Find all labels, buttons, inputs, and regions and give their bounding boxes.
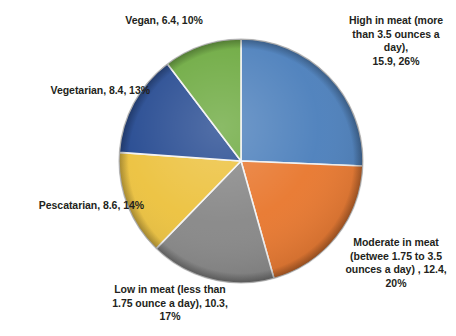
- pie-svg: [117, 37, 365, 285]
- slice-label-low-in-meat: Low in meat (less than 1.75 ounce a day)…: [92, 283, 248, 324]
- pie-graphic: [117, 37, 365, 285]
- pie-chart: High in meat (more than 3.5 ounces a day…: [0, 0, 456, 336]
- slice-label-vegetarian: Vegetarian, 8.4, 13%: [4, 84, 150, 98]
- slice-label-vegan: Vegan, 6.4, 10%: [98, 14, 230, 28]
- pie-slices: [119, 39, 363, 283]
- slice-label-pescatarian: Pescatarian, 8.6, 14%: [4, 199, 144, 213]
- slice-label-moderate-in-meat: Moderate in meat (betwee 1.75 to 3.5 oun…: [340, 236, 452, 290]
- slice-label-high-in-meat: High in meat (more than 3.5 ounces a day…: [340, 14, 452, 68]
